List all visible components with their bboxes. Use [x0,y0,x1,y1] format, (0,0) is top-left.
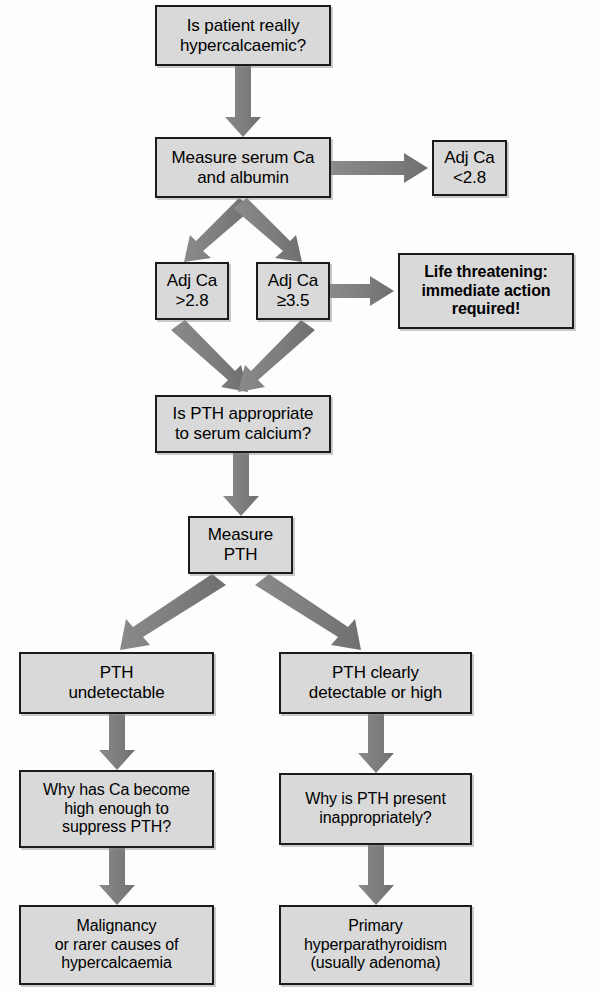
arrow-why-pth-to-primary [358,845,394,905]
arrow-undetectable-to-why-ca [99,714,135,770]
node-label: Life threatening: immediate action requi… [417,263,554,319]
node-adj-ca-lt-2-8[interactable]: Adj Ca <2.8 [432,140,507,196]
node-adj-ca-gte-3-5[interactable]: Adj Ca ≥3.5 [256,262,330,320]
node-label: PTH clearly detectable or high [305,663,446,702]
node-label: Malignancy or rarer causes of hypercalca… [51,917,183,973]
node-is-patient-hypercalcaemic[interactable]: Is patient really hypercalcaemic? [155,5,331,66]
arrow-is-pth-to-measure-pth [223,453,259,516]
arrow-adj-gte-to-is-pth [238,320,315,392]
arrow-adj-gt-to-is-pth [171,320,248,392]
node-label: Adj Ca <2.8 [440,148,498,187]
node-adj-ca-gt-2-8[interactable]: Adj Ca >2.8 [155,262,229,320]
node-primary-hyperparathyroidism[interactable]: Primary hyperparathyroidism (usually ade… [279,905,472,985]
node-why-ca-high-suppress-pth[interactable]: Why has Ca become high enough to suppres… [19,770,214,848]
arrow-measure-to-adj-gte [233,198,302,262]
node-label: Adj Ca >2.8 [163,271,221,310]
node-pth-detectable-or-high[interactable]: PTH clearly detectable or high [279,652,472,714]
arrow-measure-to-adj-gt [184,198,253,262]
node-label: Why has Ca become high enough to suppres… [39,781,194,837]
node-label: Is patient really hypercalcaemic? [176,16,310,55]
node-label: PTH undetectable [64,663,168,702]
node-label: Measure PTH [204,525,277,564]
node-life-threatening[interactable]: Life threatening: immediate action requi… [398,253,574,329]
node-is-pth-appropriate[interactable]: Is PTH appropriate to serum calcium? [155,395,331,453]
node-malignancy-or-rarer[interactable]: Malignancy or rarer causes of hypercalca… [19,905,214,985]
node-measure-serum-ca-albumin[interactable]: Measure serum Ca and albumin [155,137,331,198]
node-label: Why is PTH present inappropriately? [301,790,449,827]
flowchart-canvas: Is patient really hypercalcaemic? Measur… [0,0,601,992]
node-label: Is PTH appropriate to serum calcium? [169,404,318,443]
arrow-adj-gte-to-life-threatening [330,276,394,306]
node-why-pth-present-inappropriately[interactable]: Why is PTH present inappropriately? [279,773,472,845]
arrow-hypercalcaemic-to-measure [225,66,261,137]
node-pth-undetectable[interactable]: PTH undetectable [19,652,214,714]
arrow-measure-to-adj-lt [331,153,428,183]
node-label: Adj Ca ≥3.5 [264,271,322,310]
arrow-measure-pth-to-detectable [255,574,361,650]
node-label: Primary hyperparathyroidism (usually ade… [300,917,451,973]
node-label: Measure serum Ca and albumin [168,148,319,187]
arrow-detectable-to-why-pth [358,714,394,773]
arrow-measure-pth-to-undetectable [120,574,226,650]
node-measure-pth[interactable]: Measure PTH [188,516,293,574]
arrow-why-ca-to-malignancy [99,848,135,905]
